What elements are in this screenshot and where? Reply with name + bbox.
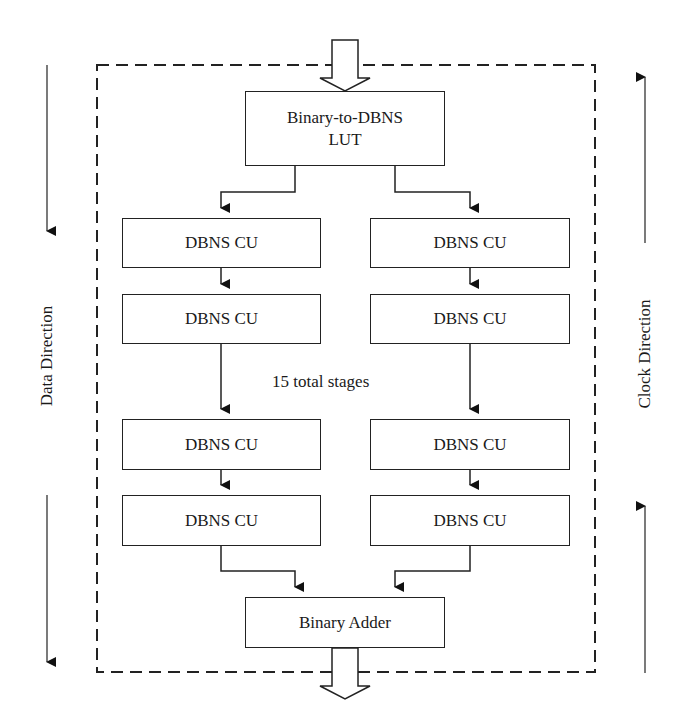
left-dbns-cu-2-label: DBNS CU (185, 308, 258, 330)
left-dbns-cu-1: DBNS CU (122, 218, 321, 268)
connector-lut-right (395, 166, 470, 208)
right-dbns-cu-2-label: DBNS CU (433, 308, 506, 330)
connector-lut-left (221, 166, 295, 208)
right-dbns-cu-2: DBNS CU (370, 294, 570, 344)
right-dbns-cu-1-label: DBNS CU (433, 232, 506, 254)
connector-right-adder (395, 546, 470, 587)
left-dbns-cu-1-label: DBNS CU (185, 232, 258, 254)
left-dbns-cu-4-label: DBNS CU (185, 510, 258, 532)
data-direction-label: Data Direction (37, 306, 57, 407)
binary-to-dbns-lut-box: Binary-to-DBNS LUT (245, 91, 445, 166)
connector-left-adder (221, 546, 295, 587)
output-arrow-icon (320, 648, 370, 699)
stages-note: 15 total stages (272, 372, 369, 392)
right-dbns-cu-3: DBNS CU (370, 419, 570, 470)
right-dbns-cu-4: DBNS CU (370, 495, 570, 546)
right-dbns-cu-3-label: DBNS CU (433, 434, 506, 456)
left-dbns-cu-3-label: DBNS CU (185, 434, 258, 456)
right-dbns-cu-4-label: DBNS CU (433, 510, 506, 532)
lut-label-line1: Binary-to-DBNS (287, 107, 403, 129)
binary-adder-label: Binary Adder (299, 612, 391, 634)
lut-label-line2: LUT (328, 129, 361, 151)
clock-direction-label: Clock Direction (635, 299, 655, 408)
left-dbns-cu-4: DBNS CU (122, 495, 321, 546)
binary-adder-box: Binary Adder (245, 597, 445, 648)
left-dbns-cu-2: DBNS CU (122, 294, 321, 344)
left-dbns-cu-3: DBNS CU (122, 419, 321, 470)
right-dbns-cu-1: DBNS CU (370, 218, 570, 268)
